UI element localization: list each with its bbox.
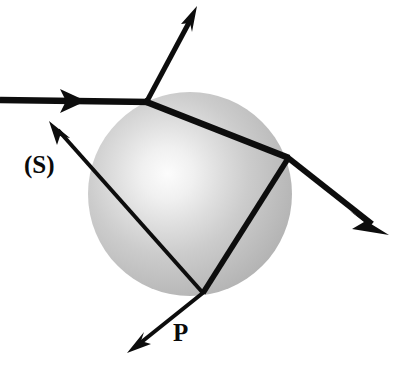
transmitted-exit-ray-line (287, 157, 372, 224)
sphere-shape (88, 92, 292, 296)
exit-ray-p-line (139, 292, 204, 344)
ray-label-p: P (173, 320, 188, 345)
ray-label-s: (S) (24, 152, 55, 177)
reflected-ray-line (146, 17, 192, 103)
transmitted-exit-ray-arrowhead-icon (350, 211, 389, 235)
optics-ray-diagram-canvas (0, 0, 393, 373)
ray-diagram-figure: (S) P (0, 0, 393, 373)
